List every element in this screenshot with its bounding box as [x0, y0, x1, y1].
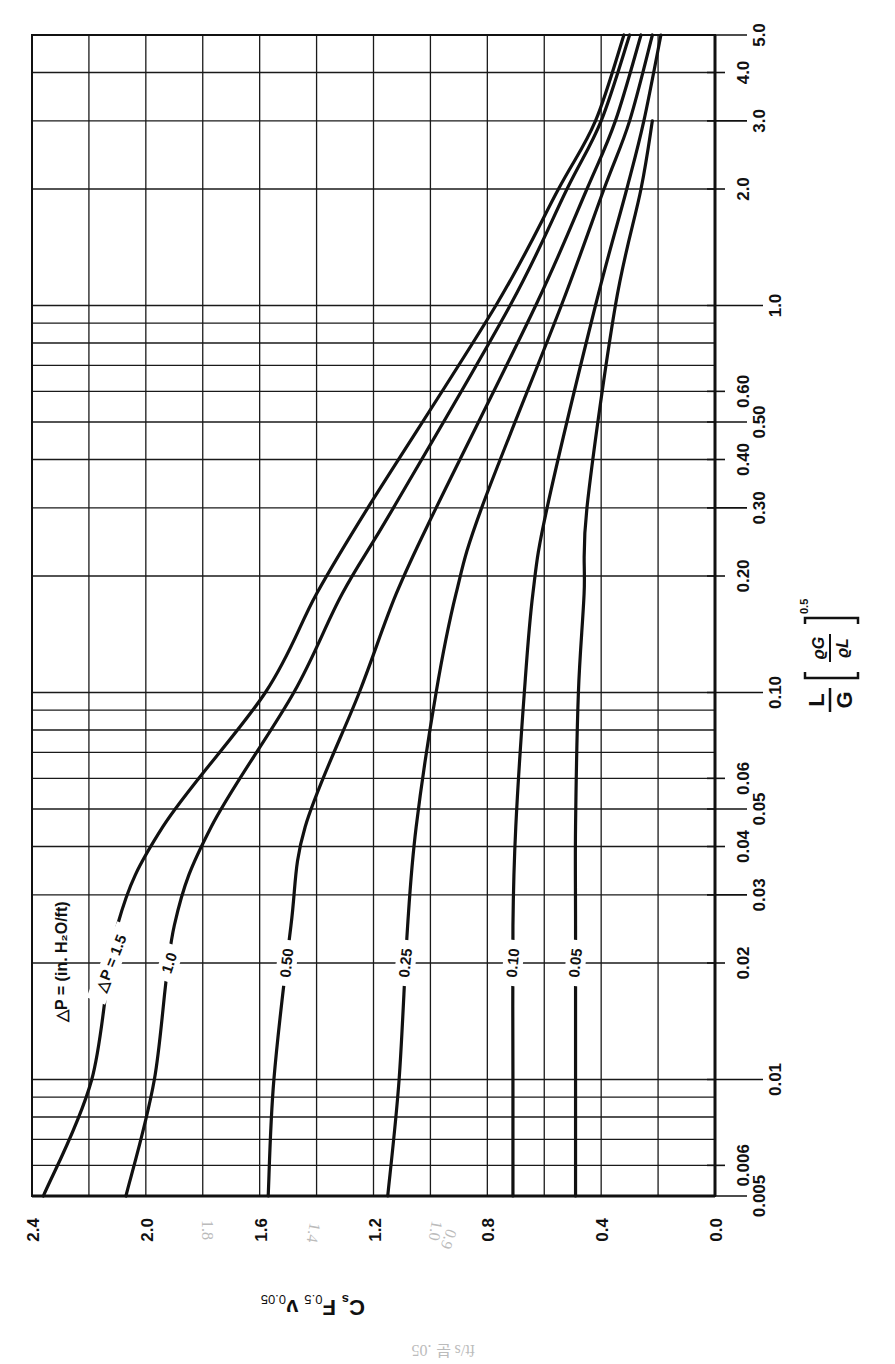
y-title-v: ν — [286, 1295, 298, 1320]
x-title-bracket-den: ϱL — [834, 638, 851, 658]
grid — [32, 35, 715, 1196]
y-tick-label: 1.2 — [366, 1218, 385, 1242]
x-title-bracket-num: ϱG — [810, 637, 827, 659]
x-tick-label: 0.006 — [734, 1144, 753, 1187]
x-tick-label: 0.50 — [750, 405, 769, 438]
chart: △P = 1.51.00.500.250.100.05 0.0050.0060.… — [0, 0, 895, 1364]
x-tick-label: 0.04 — [734, 829, 753, 863]
x-tick-label: 0.10 — [766, 676, 785, 709]
y-axis-title: CsF0.5ν0.05 — [261, 1292, 365, 1320]
x-tick-label: 0.05 — [750, 792, 769, 825]
curve-label: 0.05 — [563, 939, 588, 987]
y-tick-label: 0.8 — [479, 1218, 498, 1242]
curve-dp-0.05 — [575, 121, 652, 1196]
curve-label-text: 0.05 — [565, 948, 585, 979]
curve-label-text: 0.10 — [502, 948, 522, 979]
y-title-v-sub: 0.05 — [261, 1292, 286, 1307]
curve-label: 0.10 — [501, 939, 526, 987]
x-tick-label: 0.03 — [750, 878, 769, 911]
x-tick-label: 1.0 — [766, 294, 785, 318]
y-title-c-sub: s — [342, 1292, 349, 1307]
y-tick-label: 1.6 — [252, 1218, 271, 1242]
y-title-f: F — [322, 1295, 335, 1320]
svg-text:CsF0.5ν0.05: CsF0.5ν0.05 — [261, 1292, 365, 1320]
x-title-numerator: L — [804, 693, 829, 706]
x-title-denominator: G — [832, 691, 857, 708]
y-title-f-sub: 0.5 — [304, 1292, 322, 1307]
handwritten-annotations: 1.8 1.4 1.0 0.9 ft/s 분 .05 — [199, 1219, 475, 1359]
x-tick-label: 0.20 — [734, 559, 753, 592]
x-tick-label: 3.0 — [750, 109, 769, 133]
curve-dp-1.0 — [126, 35, 630, 1196]
pencil-note: 1.4 — [304, 1221, 324, 1244]
curve-dp-1.5 — [43, 35, 624, 1196]
x-axis-ticks: 0.0050.0060.010.020.030.040.050.060.100.… — [707, 23, 785, 1217]
x-tick-label: 0.02 — [734, 946, 753, 979]
x-title-exponent: 0.5 — [798, 599, 810, 614]
x-axis-title: L G ϱG ϱL 0.5 — [798, 599, 858, 712]
curve-label-text: 0.50 — [276, 948, 296, 979]
y-tick-label: 0.0 — [707, 1218, 726, 1242]
x-tick-label: 4.0 — [734, 61, 753, 85]
y-tick-label: 2.4 — [24, 1217, 43, 1241]
x-tick-label: 0.01 — [766, 1063, 785, 1096]
x-tick-label: 2.0 — [734, 177, 753, 201]
x-tick-label: 0.06 — [734, 762, 753, 795]
y-axis-ticks: 2.42.01.61.20.80.40.0 — [24, 1217, 726, 1241]
x-tick-label: 5.0 — [750, 23, 769, 47]
pencil-note: 1.8 — [199, 1220, 216, 1240]
pencil-note: ft/s 분 .05 — [412, 1342, 475, 1359]
y-tick-label: 0.4 — [593, 1217, 612, 1241]
curve-label-text: 0.25 — [395, 948, 415, 979]
y-title-c: C — [349, 1295, 365, 1320]
curve-dp-0.25 — [388, 35, 653, 1196]
curve-label: 0.50 — [274, 939, 299, 987]
legend-title: △P = (in. H₂O/ft) — [53, 901, 70, 1023]
curves — [43, 35, 661, 1196]
x-tick-label: 0.60 — [734, 375, 753, 408]
x-tick-label: 0.30 — [750, 491, 769, 524]
x-tick-label: 0.40 — [734, 443, 753, 476]
curve-dp-0.50 — [268, 35, 641, 1196]
curve-dp-0.10 — [513, 35, 661, 1196]
y-tick-label: 2.0 — [138, 1218, 157, 1242]
curve-label: 0.25 — [393, 939, 418, 987]
